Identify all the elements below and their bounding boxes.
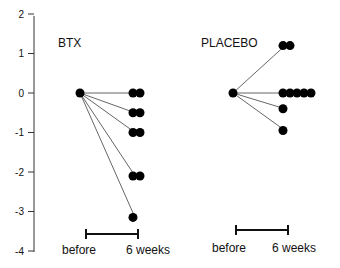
svg-text:-1: -1	[15, 127, 24, 138]
y-ticks: 210-1-2-3-4	[15, 9, 34, 257]
placebo-after-label: 6 weeks	[272, 241, 316, 255]
data-point	[136, 108, 145, 117]
group-label-btx: BTX	[58, 36, 81, 50]
data-point	[136, 128, 145, 137]
placebo-bracket	[236, 225, 288, 235]
btx-after-label: 6 weeks	[126, 243, 170, 257]
group-label-placebo: PLACEBO	[201, 36, 258, 50]
svg-text:-2: -2	[15, 167, 24, 178]
data-point	[279, 104, 288, 113]
svg-text:2: 2	[18, 9, 24, 20]
placebo-before-label: before	[212, 241, 246, 255]
plot-area	[76, 41, 316, 222]
data-point	[307, 89, 316, 98]
btx-before-label: before	[62, 243, 96, 257]
before-point	[229, 89, 238, 98]
svg-text:0: 0	[18, 88, 24, 99]
data-point	[279, 126, 288, 135]
data-point	[286, 41, 295, 50]
svg-text:1: 1	[18, 48, 24, 59]
svg-text:-3: -3	[15, 206, 24, 217]
before-point	[76, 89, 85, 98]
data-point	[129, 213, 138, 222]
data-point	[136, 89, 145, 98]
btx-bracket	[86, 229, 138, 239]
svg-text:-4: -4	[15, 246, 24, 257]
data-point	[136, 171, 145, 180]
chart: 210-1-2-3-4 BTX PLACEBO before 6 weeks b…	[0, 0, 340, 268]
